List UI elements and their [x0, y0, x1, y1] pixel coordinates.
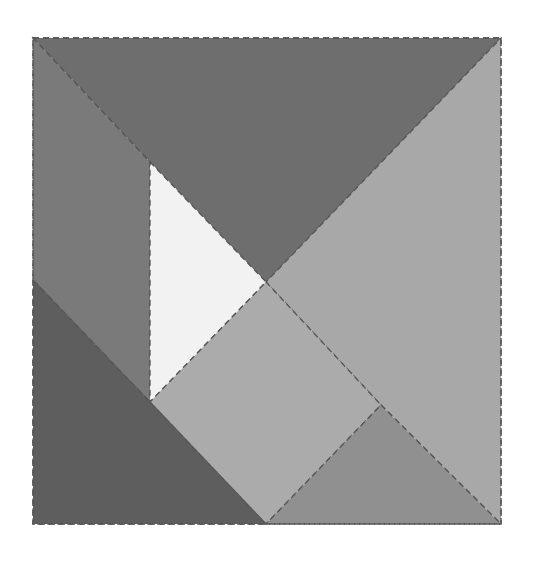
- tangram-diagram: [0, 0, 534, 564]
